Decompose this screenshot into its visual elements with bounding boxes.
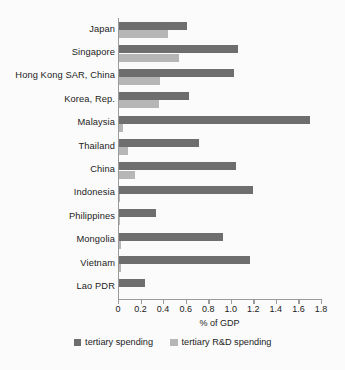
category-label: Malaysia [78, 119, 115, 128]
category-label: Vietnam [80, 259, 115, 268]
bar-group [118, 158, 345, 181]
category-label: Thailand [79, 142, 115, 151]
plot-area: JapanSingaporeHong Kong SAR, ChinaKorea,… [0, 0, 345, 370]
bar-group [118, 229, 345, 252]
bar-row: Indonesia [0, 182, 345, 205]
bar-row: Malaysia [0, 112, 345, 135]
bar-group [118, 41, 345, 64]
bar-group [118, 275, 345, 298]
x-tick-label: 0.6 [179, 305, 192, 314]
bar-group [118, 252, 345, 275]
bar-tertiary-rd-spending [118, 77, 160, 85]
x-tick-label: 0.8 [202, 305, 215, 314]
bar-tertiary-rd-spending [118, 30, 168, 38]
bar-tertiary-rd-spending [118, 100, 159, 108]
x-tick [321, 299, 322, 304]
bar-tertiary-spending [118, 209, 156, 217]
category-label: Japan [89, 25, 115, 34]
x-tick [141, 299, 142, 304]
bar-tertiary-rd-spending [118, 54, 179, 62]
bar-row: China [0, 158, 345, 181]
bar-row: Singapore [0, 41, 345, 64]
y-axis-line [118, 18, 119, 299]
legend-label: tertiary R&D spending [182, 338, 272, 347]
bar-row: Vietnam [0, 252, 345, 275]
category-label: Korea, Rep. [64, 95, 115, 104]
x-tick [253, 299, 254, 304]
bar-tertiary-spending [118, 233, 223, 241]
bar-tertiary-spending [118, 279, 145, 287]
x-tick-label: 0.2 [134, 305, 147, 314]
bar-group [118, 65, 345, 88]
category-label: Indonesia [74, 189, 115, 198]
category-label: Mongolia [76, 236, 115, 245]
bar-tertiary-spending [118, 139, 199, 147]
x-tick [186, 299, 187, 304]
bar-group [118, 18, 345, 41]
bar-row: Mongolia [0, 229, 345, 252]
x-axis-title: % of GDP [118, 319, 321, 328]
x-tick-label: 1.0 [225, 305, 238, 314]
category-label: Philippines [69, 212, 115, 221]
category-label: Singapore [72, 48, 115, 57]
legend-swatch-icon [170, 339, 178, 347]
bar-row: Lao PDR [0, 275, 345, 298]
x-tick [208, 299, 209, 304]
x-tick [231, 299, 232, 304]
x-tick [118, 299, 119, 304]
category-label: Lao PDR [77, 282, 115, 291]
bar-row: Thailand [0, 135, 345, 158]
bar-tertiary-rd-spending [118, 171, 135, 179]
x-tick [276, 299, 277, 304]
x-tick-label: 0 [115, 305, 120, 314]
x-tick-label: 1.6 [292, 305, 305, 314]
bar-group [118, 205, 345, 228]
bar-tertiary-spending [118, 162, 236, 170]
x-tick [298, 299, 299, 304]
x-tick-label: 0.4 [157, 305, 170, 314]
bar-tertiary-spending [118, 22, 187, 30]
bar-tertiary-spending [118, 256, 250, 264]
category-label: China [90, 165, 115, 174]
x-tick [163, 299, 164, 304]
bar-row: Japan [0, 18, 345, 41]
bar-group [118, 112, 345, 135]
x-axis-line [118, 299, 321, 300]
chart-legend: tertiary spendingtertiary R&D spending [0, 338, 345, 347]
x-tick-label: 1.2 [247, 305, 260, 314]
x-tick-label: 1.8 [315, 305, 328, 314]
legend-label: tertiary spending [85, 338, 153, 347]
bar-tertiary-rd-spending [118, 147, 128, 155]
bar-group [118, 135, 345, 158]
bar-rows: JapanSingaporeHong Kong SAR, ChinaKorea,… [0, 18, 345, 299]
legend-item[interactable]: tertiary R&D spending [170, 338, 271, 347]
bar-group [118, 88, 345, 111]
bar-tertiary-spending [118, 116, 310, 124]
chart-figure: JapanSingaporeHong Kong SAR, ChinaKorea,… [0, 0, 345, 370]
bar-group [118, 182, 345, 205]
bar-tertiary-spending [118, 92, 189, 100]
legend-item[interactable]: tertiary spending [74, 338, 153, 347]
legend-swatch-icon [74, 339, 82, 347]
bar-row: Hong Kong SAR, China [0, 65, 345, 88]
bar-tertiary-spending [118, 186, 253, 194]
bar-row: Korea, Rep. [0, 88, 345, 111]
bar-row: Philippines [0, 205, 345, 228]
x-tick-label: 1.4 [270, 305, 283, 314]
bar-tertiary-spending [118, 45, 238, 53]
category-label: Hong Kong SAR, China [15, 72, 115, 81]
bar-tertiary-spending [118, 69, 234, 77]
